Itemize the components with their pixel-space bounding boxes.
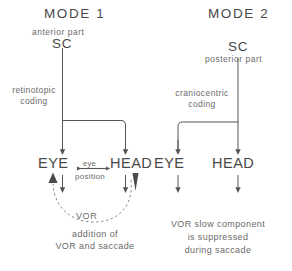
mode1-coding-line-1: retinotopic xyxy=(5,85,63,95)
mode2-caption-line-3: during saccade xyxy=(148,244,288,256)
mode1-link-label-bottom: position xyxy=(75,172,105,181)
mode1-vor-arrowhead-head xyxy=(133,173,139,191)
mode2-source-label: SC xyxy=(228,39,248,55)
mode1-branch-line xyxy=(63,121,126,153)
mode2-branch-line xyxy=(178,122,238,152)
figure-canvas: MODE 1 anterior part SC retinotopic codi… xyxy=(0,0,292,271)
mode2-coding-line-1: craniocentric xyxy=(166,88,238,98)
mode2-title: MODE 2 xyxy=(208,6,269,22)
mode2-caption-line-1: VOR slow component xyxy=(148,218,288,230)
mode1-link-label-top: eye xyxy=(83,160,96,169)
mode1-effector-head: HEAD xyxy=(110,155,152,172)
mode1-title: MODE 1 xyxy=(44,6,105,22)
mode2-caption-line-2: is suppressed xyxy=(148,231,288,243)
mode2-source-qualifier: posterior part xyxy=(205,54,262,64)
mode2-effector-eye: EYE xyxy=(154,155,185,172)
mode1-arc-label: VOR xyxy=(76,211,97,222)
mode1-vor-arrowhead-eye xyxy=(48,173,57,184)
mode2-effector-head: HEAD xyxy=(212,155,254,172)
mode1-coding-line-2: coding xyxy=(5,96,63,106)
mode2-coding-line-2: coding xyxy=(166,99,238,109)
mode1-source-label: SC xyxy=(52,36,72,52)
mode1-effector-eye: EYE xyxy=(38,155,69,172)
